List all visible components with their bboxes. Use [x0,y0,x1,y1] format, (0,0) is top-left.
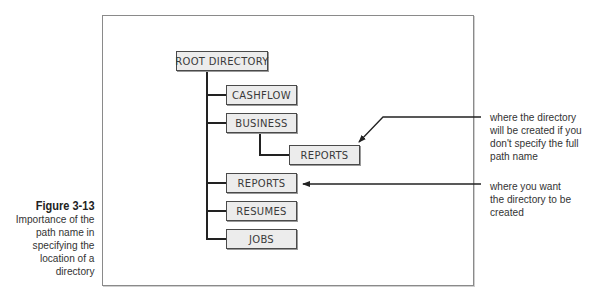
annotation-line: will be created if you [490,124,582,137]
arrow-to-business-reports [359,117,481,142]
annotation-line: the directory to be [490,193,571,206]
annotation-line: created [490,206,571,219]
annotation-reports: where you want the directory to be creat… [490,180,571,219]
annotation-line: path name [490,150,582,163]
annotation-line: where the directory [490,111,582,124]
annotation-business-reports: where the directory will be created if y… [490,111,582,163]
annotation-line: don't specify the full [490,137,582,150]
annotation-line: where you want [490,180,571,193]
